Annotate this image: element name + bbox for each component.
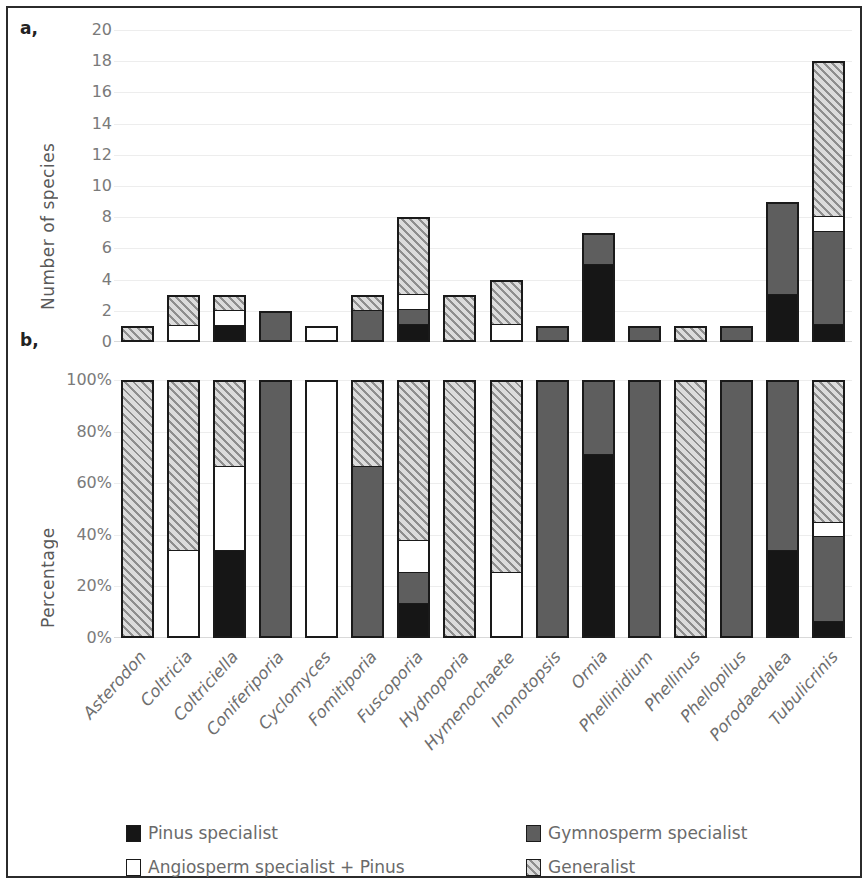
bar-slot — [206, 30, 252, 342]
bar-slot — [529, 30, 575, 342]
stacked-bar[interactable] — [351, 295, 384, 342]
stacked-bar[interactable] — [351, 380, 384, 638]
stacked-bar[interactable] — [443, 380, 476, 638]
bar-segment-generalist — [215, 382, 244, 467]
legend-item-generalist[interactable]: Generalist — [526, 857, 826, 877]
bar-segment-gymnosperm — [722, 382, 751, 636]
bar-slot — [391, 30, 437, 342]
bar-segment-generalist — [814, 382, 843, 523]
bar-slot — [483, 30, 529, 342]
bar-segment-pinus — [814, 325, 843, 340]
stacked-bar[interactable] — [259, 311, 292, 342]
bar-slot — [760, 30, 806, 342]
bar-segment-generalist — [814, 63, 843, 217]
stacked-bar[interactable] — [812, 61, 845, 342]
y-tick-label: 20% — [66, 578, 112, 594]
legend-item-gymnosperm[interactable]: Gymnosperm specialist — [526, 823, 826, 843]
bar-segment-generalist — [445, 297, 474, 340]
legend-label: Angiosperm specialist + Pinus — [148, 857, 405, 877]
bar-segment-angiosperm — [399, 541, 428, 573]
bar-segment-gymnosperm — [399, 573, 428, 605]
bar-segment-gymnosperm — [814, 537, 843, 622]
bar-segment-angiosperm — [492, 573, 521, 637]
bar-slot — [160, 30, 206, 342]
stacked-bar[interactable] — [628, 326, 661, 342]
y-tick-label: 4 — [66, 272, 112, 288]
stacked-bar[interactable] — [305, 380, 338, 638]
bar-segment-generalist — [169, 297, 198, 326]
stacked-bar[interactable] — [812, 380, 845, 638]
stacked-bar[interactable] — [213, 380, 246, 638]
y-tick-label: 20 — [66, 22, 112, 38]
bar-segment-gymnosperm — [814, 232, 843, 324]
stacked-bar[interactable] — [674, 380, 707, 638]
bar-segment-pinus — [584, 265, 613, 340]
stacked-bar[interactable] — [121, 326, 154, 342]
stacked-bar[interactable] — [259, 380, 292, 638]
legend-label: Generalist — [548, 857, 635, 877]
bar-segment-pinus — [215, 551, 244, 636]
bar-segment-pinus — [399, 604, 428, 636]
legend: Pinus specialistGymnosperm specialistAng… — [126, 816, 826, 884]
bar-slot — [437, 380, 483, 638]
legend-swatch-gymnosperm — [526, 825, 541, 842]
stacked-bar[interactable] — [628, 380, 661, 638]
bar-segment-angiosperm — [215, 467, 244, 552]
stacked-bar[interactable] — [766, 202, 799, 342]
y-tick-label: 8 — [66, 209, 112, 225]
bar-segment-angiosperm — [814, 217, 843, 232]
panel-a-tag: a, — [20, 18, 38, 38]
bar-segment-generalist — [353, 297, 382, 311]
bar-slot — [575, 380, 621, 638]
legend-item-angiosperm[interactable]: Angiosperm specialist + Pinus — [126, 857, 526, 877]
bar-segment-generalist — [445, 382, 474, 636]
stacked-bar[interactable] — [674, 326, 707, 342]
stacked-bar[interactable] — [582, 233, 615, 342]
panel-a-y-axis-title: Number of species — [38, 80, 58, 310]
legend-label: Pinus specialist — [148, 823, 278, 843]
stacked-bar[interactable] — [720, 326, 753, 342]
bar-slot — [806, 30, 852, 342]
stacked-bar[interactable] — [536, 326, 569, 342]
stacked-bar[interactable] — [536, 380, 569, 638]
y-tick-label: 10 — [66, 178, 112, 194]
bar-segment-pinus — [768, 295, 797, 340]
x-axis-tick-label: Ornia — [568, 647, 612, 693]
y-tick-label: 18 — [66, 53, 112, 69]
stacked-bar[interactable] — [397, 380, 430, 638]
bar-slot — [252, 30, 298, 342]
bar-slot — [160, 380, 206, 638]
stacked-bar[interactable] — [305, 326, 338, 342]
bar-slot — [437, 30, 483, 342]
stacked-bar[interactable] — [121, 380, 154, 638]
bar-slot — [806, 380, 852, 638]
bar-segment-gymnosperm — [630, 328, 659, 340]
stacked-bar[interactable] — [213, 295, 246, 342]
stacked-bar[interactable] — [397, 217, 430, 342]
stacked-bar[interactable] — [167, 295, 200, 342]
panel-a-bars — [114, 30, 852, 342]
stacked-bar[interactable] — [490, 380, 523, 638]
stacked-bar[interactable] — [766, 380, 799, 638]
y-tick-label: 6 — [66, 240, 112, 256]
bar-segment-generalist — [123, 328, 152, 340]
bar-slot — [483, 380, 529, 638]
stacked-bar[interactable] — [490, 280, 523, 342]
legend-item-pinus[interactable]: Pinus specialist — [126, 823, 526, 843]
bar-slot — [668, 30, 714, 342]
stacked-bar[interactable] — [167, 380, 200, 638]
bar-segment-pinus — [399, 325, 428, 340]
legend-swatch-angiosperm — [126, 859, 141, 876]
stacked-bar[interactable] — [443, 295, 476, 342]
bar-segment-pinus — [814, 622, 843, 636]
panel-a-plot — [114, 30, 852, 342]
panel-b-bars — [114, 380, 852, 638]
bar-slot — [206, 380, 252, 638]
bar-segment-angiosperm — [307, 382, 336, 636]
y-tick-label: 2 — [66, 303, 112, 319]
bar-segment-gymnosperm — [584, 382, 613, 455]
stacked-bar[interactable] — [582, 380, 615, 638]
bar-segment-gymnosperm — [538, 382, 567, 636]
stacked-bar[interactable] — [720, 380, 753, 638]
bar-segment-pinus — [584, 455, 613, 636]
